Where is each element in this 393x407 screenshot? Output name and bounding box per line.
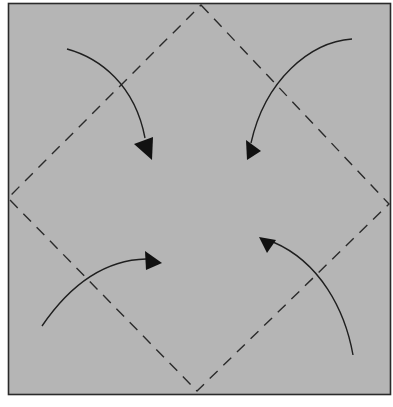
paper-square <box>9 4 391 395</box>
origami-fold-diagram <box>0 0 393 407</box>
